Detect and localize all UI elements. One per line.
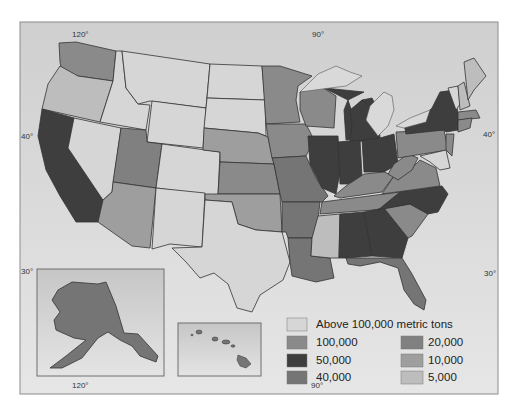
state-florida [346, 258, 426, 310]
state-maine [464, 58, 486, 100]
legend-label-20000: 20,000 [428, 336, 463, 348]
state-kansas [218, 162, 280, 194]
hawaii-inset [178, 323, 261, 376]
state-north-dakota [207, 64, 265, 100]
state-connecticut [458, 118, 472, 132]
state-new-mexico [152, 188, 205, 249]
legend-swatch-above-100000 [287, 318, 307, 331]
state-new-jersey [446, 134, 454, 156]
legend: Above 100,000 metric tons 100,000 50,000… [287, 318, 463, 384]
map-layer: 120° 90° 40° 30° 40° 30° 120° 90° Above … [0, 0, 518, 416]
legend-swatch-10000 [401, 354, 423, 367]
state-wyoming [147, 101, 206, 148]
lon-label-top-120: 120° [72, 30, 89, 39]
legend-label-10000: 10,000 [428, 354, 463, 366]
legend-swatch-5000 [401, 371, 423, 384]
lat-label-left-30: 30° [21, 267, 33, 276]
legend-label-5000: 5,000 [428, 371, 457, 383]
legend-swatch-40000 [287, 371, 307, 384]
state-wisconsin [300, 86, 336, 128]
legend-label-40000: 40,000 [316, 371, 351, 383]
lat-label-right-30: 30° [484, 269, 496, 278]
lon-label-bottom-120: 120° [72, 381, 89, 390]
legend-swatch-50000 [287, 354, 307, 367]
legend-label-above-100000: Above 100,000 metric tons [316, 318, 453, 330]
legend-swatch-20000 [401, 336, 423, 349]
lat-label-left-40: 40° [21, 132, 33, 141]
state-new-york [404, 90, 458, 134]
legend-label-50000: 50,000 [316, 354, 351, 366]
state-montana [122, 51, 210, 108]
lat-label-right-40: 40° [483, 130, 495, 139]
legend-swatch-100000 [287, 336, 307, 349]
legend-label-100000: 100,000 [316, 336, 358, 348]
state-iowa [266, 124, 314, 158]
state-colorado [156, 144, 220, 196]
lon-label-top-90: 90° [312, 30, 324, 39]
